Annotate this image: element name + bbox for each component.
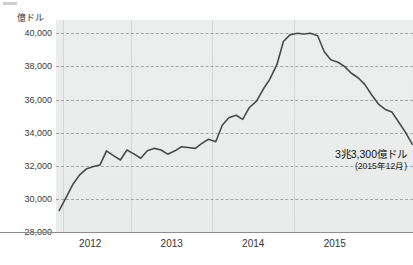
y-axis-tick-labels: 28,00030,00032,00034,00036,00038,00040,0…	[0, 0, 52, 265]
annotation-date: (2015年12月)	[335, 161, 407, 172]
data-annotation: 3兆3,300億ドル (2015年12月)	[335, 148, 407, 172]
series-line-path	[59, 33, 412, 210]
y-axis-tick-label: 36,000	[0, 95, 52, 105]
x-axis-tick-label: 2014	[242, 238, 264, 249]
y-axis-tick-label: 40,000	[0, 28, 52, 38]
y-axis-tick-label: 30,000	[0, 194, 52, 204]
chart-container: 億ドル 28,00030,00032,00034,00036,00038,000…	[0, 0, 413, 265]
x-axis-tick-label: 2013	[161, 238, 183, 249]
x-axis-tick-label: 2012	[79, 238, 101, 249]
annotation-value: 3兆3,300億ドル	[335, 148, 407, 161]
data-line-series	[56, 20, 413, 232]
plot-area	[56, 20, 413, 232]
x-axis-tick-label: 2015	[324, 238, 346, 249]
x-axis-line	[0, 232, 413, 233]
y-axis-tick-label: 34,000	[0, 128, 52, 138]
y-axis-tick-label: 32,000	[0, 161, 52, 171]
y-axis-tick-label: 38,000	[0, 61, 52, 71]
